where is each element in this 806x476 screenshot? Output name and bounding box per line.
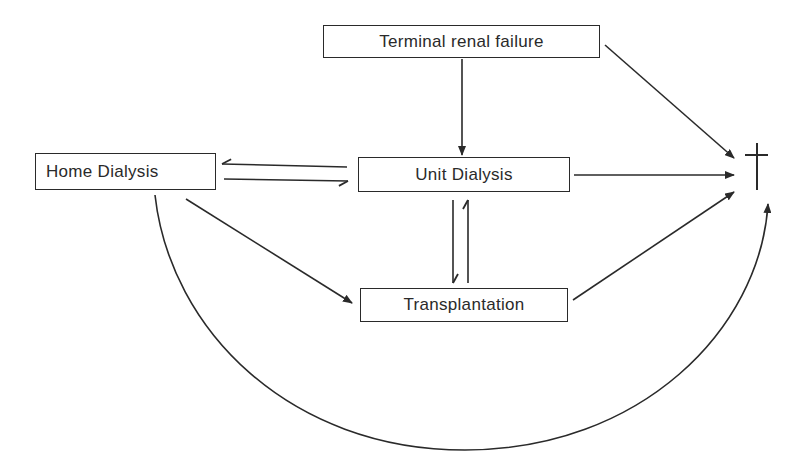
diagram-connectors [0,0,806,476]
node-terminal-renal-failure: Terminal renal failure [323,25,600,58]
node-label: Transplantation [403,295,524,315]
edge-terminal-to-death [605,45,734,158]
edge-home-to-transplant [186,199,352,303]
node-label: Unit Dialysis [415,165,512,185]
node-unit-dialysis: Unit Dialysis [358,157,570,192]
dagger-icon [742,140,772,194]
edge-home-to-death-curved [155,195,768,450]
node-label: Terminal renal failure [379,32,543,52]
node-label: Home Dialysis [46,162,159,182]
edge-transplant-to-death [573,192,734,300]
node-home-dialysis: Home Dialysis [35,153,216,190]
node-transplantation: Transplantation [360,288,568,322]
edge-home-to-unit [224,179,348,181]
edge-unit-to-home [222,164,347,167]
